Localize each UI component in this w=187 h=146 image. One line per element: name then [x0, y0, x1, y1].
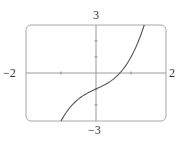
x-max-label: 2	[169, 66, 175, 80]
y-min-label: −3	[88, 123, 101, 137]
chart-figure: −2 2 3 −3	[0, 0, 187, 146]
y-max-label: 3	[93, 8, 99, 22]
x-min-label: −2	[3, 66, 16, 80]
